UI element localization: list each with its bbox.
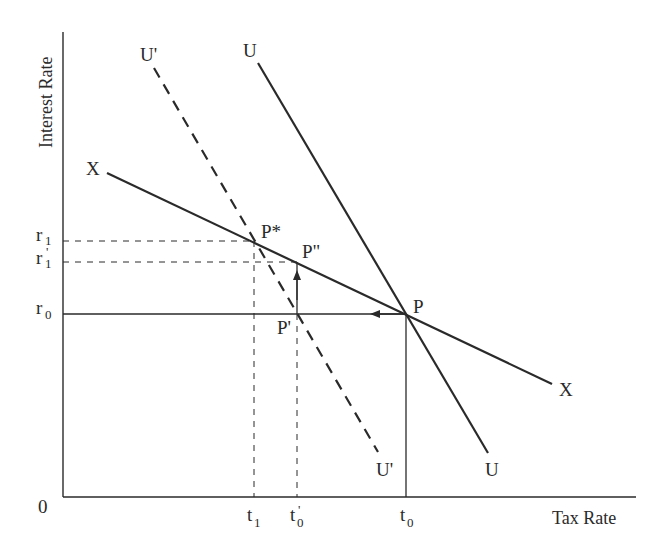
svg-text:0: 0 bbox=[407, 515, 414, 530]
tick-r1-prime: r 1 ' bbox=[36, 244, 52, 271]
label-p: P bbox=[413, 296, 424, 317]
tick-r0: r 0 bbox=[36, 297, 52, 322]
svg-text:': ' bbox=[298, 502, 300, 517]
svg-text:r: r bbox=[36, 224, 43, 245]
curve-x bbox=[107, 173, 552, 384]
tick-r1: r 1 bbox=[36, 224, 52, 248]
svg-text:': ' bbox=[46, 244, 48, 259]
svg-text:t: t bbox=[247, 504, 253, 525]
tick-t1: t 1 bbox=[247, 504, 261, 530]
curve-u-prime bbox=[154, 68, 378, 452]
label-u-start: U bbox=[243, 40, 257, 61]
label-u-prime-start: U' bbox=[140, 44, 157, 65]
label-p-prime: P' bbox=[277, 317, 291, 338]
svg-text:0: 0 bbox=[297, 515, 304, 530]
label-p-double-prime: P" bbox=[302, 241, 320, 262]
curve-u bbox=[258, 63, 488, 453]
tick-t0: t 0 bbox=[400, 504, 414, 530]
tax-interest-diagram: Interest Rate Tax Rate 0 X X U U U' U' P… bbox=[0, 0, 665, 552]
label-u-end: U bbox=[485, 459, 499, 480]
label-x-start: X bbox=[86, 158, 100, 179]
svg-text:1: 1 bbox=[254, 515, 261, 530]
svg-text:0: 0 bbox=[45, 307, 52, 322]
label-p-star: P* bbox=[261, 221, 281, 242]
origin-label: 0 bbox=[38, 496, 48, 517]
svg-text:r: r bbox=[36, 297, 43, 318]
svg-text:t: t bbox=[400, 504, 406, 525]
x-axis-title: Tax Rate bbox=[552, 508, 616, 528]
y-axis-title: Interest Rate bbox=[36, 57, 56, 148]
tick-t0-prime: t 0 ' bbox=[290, 502, 304, 530]
svg-text:r: r bbox=[36, 247, 43, 268]
label-x-end: X bbox=[559, 379, 573, 400]
svg-text:t: t bbox=[290, 504, 296, 525]
label-u-prime-end: U' bbox=[376, 459, 393, 480]
